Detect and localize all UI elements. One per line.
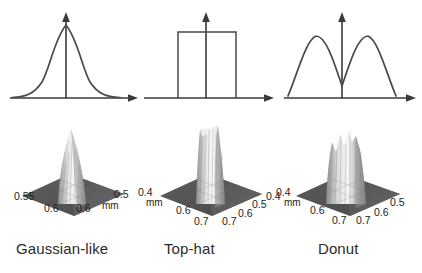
y-axis	[202, 12, 210, 98]
panel-tophat: 0.4 mm 0.6 0.7 0.7 0.6 0.5 0.4 Top-hat	[142, 0, 282, 273]
tophat-curve	[178, 32, 236, 98]
gaussian-tick-front-0: 0.6	[76, 202, 91, 214]
donut-profile-chart	[282, 6, 422, 110]
gaussian-unit-label: mm	[102, 200, 119, 211]
donut-surface-plot: 0.4 mm 0.6 0.7 0.7 0.6 0.5	[282, 112, 422, 234]
tophat-tick-left-1: 0.6	[176, 204, 191, 216]
donut-tick-left-2: 0.7	[332, 214, 347, 226]
x-axis	[144, 94, 274, 102]
gaussian-tick-left-0: 0.55	[14, 190, 34, 202]
tophat-profile-chart	[142, 6, 282, 110]
tophat-unit-label: mm	[146, 197, 163, 208]
tophat-tick-right-1: 0.6	[238, 207, 253, 219]
donut-tick-right-0: 0.7	[356, 214, 371, 226]
tophat-tick-right-2: 0.5	[252, 198, 267, 210]
gaussian-profile-chart	[2, 6, 142, 110]
donut-unit-label: mm	[284, 197, 301, 208]
donut-tick-right-1: 0.6	[374, 206, 389, 218]
caption-gaussian: Gaussian-like	[2, 240, 156, 257]
beam-profile-figure: 0.55 0.6 0.6 0.5 mm Gaussian-like	[0, 0, 422, 273]
gaussian-tick-right-0: 0.5	[114, 188, 129, 200]
caption-tophat: Top-hat	[142, 240, 304, 257]
donut-tick-left-1: 0.6	[310, 204, 325, 216]
gaussian-tick-left-1: 0.6	[44, 202, 59, 214]
gaussian-surface-plot: 0.55 0.6 0.6 0.5 mm	[2, 112, 142, 234]
tophat-tick-left-2: 0.7	[194, 215, 209, 227]
tophat-tick-right-0: 0.7	[222, 215, 237, 227]
donut-tick-right-2: 0.5	[390, 196, 405, 208]
caption-donut: Donut	[282, 240, 422, 257]
panel-donut: 0.4 mm 0.6 0.7 0.7 0.6 0.5 Donut	[282, 0, 422, 273]
panel-gaussian: 0.55 0.6 0.6 0.5 mm Gaussian-like	[2, 0, 142, 273]
tophat-surface-plot: 0.4 mm 0.6 0.7 0.7 0.6 0.5 0.4	[142, 112, 282, 234]
